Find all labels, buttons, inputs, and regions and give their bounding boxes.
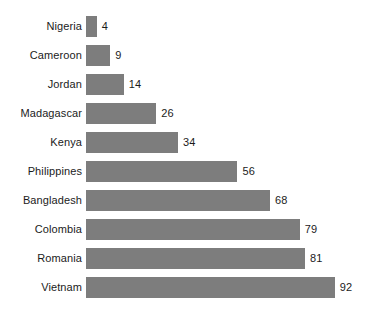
value-label: 34 [183,132,195,153]
plot-area: Nigeria4Cameroon9Jordan14Madagascar26Ken… [0,0,374,315]
bar [86,74,124,95]
bar [86,16,97,37]
bar-row: Madagascar26 [0,103,374,124]
category-label: Romania [37,248,82,269]
value-label: 92 [340,277,352,298]
bar-row: Vietnam92 [0,277,374,298]
value-label: 4 [102,16,108,37]
category-label: Madagascar [20,103,82,124]
bar-row: Nigeria4 [0,16,374,37]
category-label: Colombia [35,219,82,240]
bar-row: Bangladesh68 [0,190,374,211]
category-label: Philippines [28,161,82,182]
category-label: Kenya [50,132,82,153]
bar-row: Kenya34 [0,132,374,153]
bar [86,190,270,211]
category-label: Nigeria [46,16,82,37]
bar [86,277,335,298]
value-label: 81 [310,248,322,269]
bar [86,248,305,269]
bar-row: Jordan14 [0,74,374,95]
value-label: 9 [115,45,121,66]
bar-row: Romania81 [0,248,374,269]
category-label: Cameroon [30,45,82,66]
bar [86,132,178,153]
bar [86,45,110,66]
value-label: 56 [242,161,254,182]
bar-row: Colombia79 [0,219,374,240]
bar-row: Cameroon9 [0,45,374,66]
bar [86,219,300,240]
bar-chart: Nigeria4Cameroon9Jordan14Madagascar26Ken… [0,0,374,315]
bar-row: Philippines56 [0,161,374,182]
value-label: 79 [305,219,317,240]
value-label: 68 [275,190,287,211]
category-label: Bangladesh [23,190,82,211]
value-label: 26 [161,103,173,124]
category-label: Jordan [48,74,82,95]
bar [86,103,156,124]
value-label: 14 [129,74,141,95]
bar [86,161,237,182]
category-label: Vietnam [41,277,82,298]
